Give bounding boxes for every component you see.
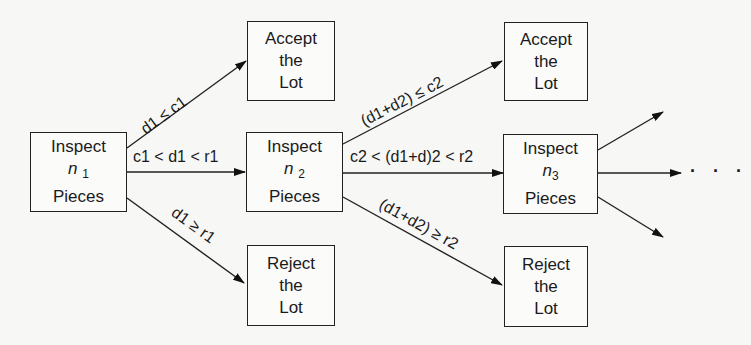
node-variable: n 1: [68, 158, 89, 185]
node-variable: n3: [542, 160, 558, 187]
node-text: Inspect: [267, 136, 322, 158]
node-text: Inspect: [51, 136, 106, 158]
node-text: Lot: [534, 73, 558, 95]
continuation-ellipsis: · · ·: [690, 161, 748, 182]
node-text: Reject: [267, 253, 315, 275]
node-text: Pieces: [269, 186, 320, 208]
edge-inspect3-up: [598, 112, 663, 150]
node-text: Accept: [520, 29, 572, 51]
node-text: Lot: [534, 298, 558, 320]
node-text: the: [279, 50, 303, 72]
node-text: Pieces: [525, 188, 576, 210]
node-inspect-n2: Inspect n 2 Pieces: [246, 132, 343, 212]
edge-inspect2-accept2: [343, 61, 502, 144]
node-text: Accept: [265, 28, 317, 50]
node-reject-lot-1: Reject the Lot: [247, 245, 335, 326]
node-text: Pieces: [53, 186, 104, 208]
node-text: Lot: [279, 72, 303, 94]
node-text: the: [279, 275, 303, 297]
node-text: Lot: [279, 297, 303, 319]
node-reject-lot-2: Reject the Lot: [504, 246, 588, 327]
node-text: Inspect: [523, 138, 578, 160]
node-accept-lot-1: Accept the Lot: [247, 21, 335, 101]
edge-inspect2-reject2: [343, 197, 502, 285]
edge-label-c2-lt-sum-lt-r2: c2 < (d1+d)2 < r2: [350, 148, 473, 166]
node-text: Reject: [522, 254, 570, 276]
node-variable: n 2: [284, 158, 305, 185]
edge-label-c1-lt-d1-lt-r1: c1 < d1 < r1: [133, 148, 218, 166]
node-text: the: [534, 276, 558, 298]
node-accept-lot-2: Accept the Lot: [504, 22, 588, 101]
node-inspect-n3: Inspect n3 Pieces: [503, 134, 598, 214]
node-inspect-n1: Inspect n 1 Pieces: [30, 132, 127, 212]
edge-inspect3-down: [598, 197, 663, 237]
node-text: the: [534, 51, 558, 73]
